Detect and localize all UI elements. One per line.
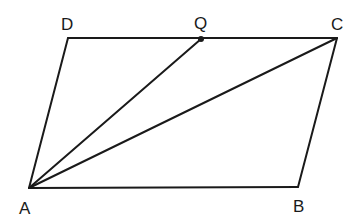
parallelogram-diagram: A B C D Q bbox=[0, 0, 358, 224]
diagram-canvas: A B C D Q bbox=[0, 0, 358, 224]
label-a: A bbox=[19, 199, 31, 218]
label-b: B bbox=[293, 197, 304, 216]
label-d: D bbox=[61, 15, 73, 34]
segment-ab bbox=[29, 187, 298, 188]
segment-bc bbox=[298, 38, 337, 187]
segment-da bbox=[29, 38, 68, 188]
segment-aq bbox=[29, 39, 201, 188]
label-c: C bbox=[331, 15, 343, 34]
label-q: Q bbox=[194, 14, 207, 33]
point-q-dot bbox=[198, 36, 204, 42]
segment-ac bbox=[29, 38, 337, 188]
